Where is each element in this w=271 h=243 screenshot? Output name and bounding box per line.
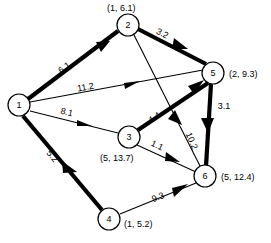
edge-4-to-6-weight: 9.3: [150, 190, 165, 204]
node-3-label: 3: [126, 132, 131, 142]
edge-1-to-4-weight: 5.2: [44, 148, 60, 164]
edge-3-to-5: 4.4: [138, 80, 208, 130]
edge-3-to-6-weight: 1.1: [149, 138, 165, 152]
node-3-annotation: (5, 13.7): [100, 153, 134, 163]
node-3[interactable]: 3: [118, 126, 140, 148]
node-2-annotation: (1, 6.1): [107, 3, 136, 13]
edge-1-to-5-arrowhead: [124, 81, 140, 89]
edge-1-to-5-line: [30, 70, 203, 102]
node-2-label: 2: [125, 20, 130, 30]
node-5[interactable]: 5: [202, 62, 224, 84]
edge-2-to-6-weight: 10.2: [184, 131, 200, 151]
node-4[interactable]: 4: [98, 208, 120, 230]
edge-2-to-6-arrowhead: [168, 110, 182, 125]
edge-3-to-1: 8.1: [30, 106, 118, 133]
node-6-label: 6: [202, 171, 207, 181]
edge-3-to-6: 1.1: [137, 138, 196, 172]
graph-canvas: 6.1 3.2 11.2 8.1 5.2: [0, 0, 271, 243]
node-2[interactable]: 2: [117, 14, 139, 36]
edge-3-to-1-weight: 8.1: [59, 106, 74, 119]
node-6-annotation: (5, 12.4): [221, 172, 255, 182]
edge-1-to-4-arrowhead: [62, 161, 77, 173]
node-1-label: 1: [16, 100, 21, 110]
node-5-annotation: (2, 9.3): [229, 69, 258, 79]
node-5-label: 5: [210, 68, 215, 78]
edge-5-to-6: 3.1: [201, 84, 230, 166]
edge-5-to-6-arrowhead: [201, 118, 214, 133]
edge-1-to-5-weight: 11.2: [76, 81, 94, 94]
node-4-label: 4: [106, 214, 111, 224]
network-diagram: 6.1 3.2 11.2 8.1 5.2: [0, 0, 271, 243]
node-4-annotation: (1, 5.2): [124, 219, 153, 229]
edge-4-to-6: 9.3: [120, 183, 196, 214]
node-1[interactable]: 1: [8, 94, 30, 116]
edge-3-to-6-arrowhead: [165, 152, 180, 162]
edge-1-to-4: 5.2: [23, 116, 102, 210]
edge-4-to-6-arrowhead: [172, 184, 188, 197]
edge-1-to-2: 6.1: [28, 31, 118, 99]
edge-2-to-5: 3.2: [138, 26, 206, 64]
edge-2-to-5-line: [138, 29, 206, 64]
edge-1-to-2-weight: 6.1: [56, 60, 72, 76]
edge-5-to-6-weight: 3.1: [218, 101, 231, 111]
edge-1-to-5: 11.2: [30, 70, 203, 102]
edge-2-to-5-arrowhead: [172, 38, 188, 49]
edge-1-to-2-line: [28, 31, 118, 99]
edge-3-to-1-arrowhead: [77, 120, 92, 126]
edge-3-to-1-line: [30, 111, 118, 133]
node-6[interactable]: 6: [194, 165, 216, 187]
edge-3-to-5-line: [138, 83, 208, 130]
